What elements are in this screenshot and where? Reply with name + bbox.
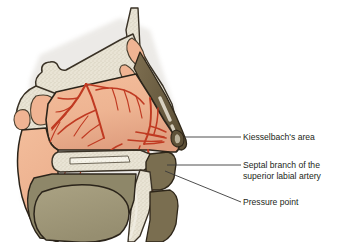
label-pressure-text: Pressure point [243,197,298,207]
label-kiesselbach-area: Kiesselbach's area [243,132,315,143]
label-septal-text-line2: superior labial artery [243,171,321,182]
pharyngeal-wall [146,190,178,242]
label-septal-text-line1: Septal branch of the [243,160,320,170]
anatomy-figure: Kiesselbach's area Septal branch of the … [0,0,349,242]
tongue [34,185,129,242]
label-pressure-point: Pressure point [243,197,298,208]
label-septal-branch: Septal branch of the superior labial art… [243,160,321,182]
hard-palate [52,150,152,172]
label-kiesselbach-text: Kiesselbach's area [243,132,315,142]
